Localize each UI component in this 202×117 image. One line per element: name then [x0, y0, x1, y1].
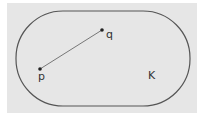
- stadium-boundary: [16, 11, 190, 106]
- label-k: K: [148, 69, 156, 82]
- label-p: p: [38, 70, 45, 83]
- point-q: [100, 28, 104, 32]
- convex-set-diagram: p q K: [0, 0, 202, 117]
- segment-pq: [40, 30, 102, 69]
- label-q: q: [106, 28, 113, 41]
